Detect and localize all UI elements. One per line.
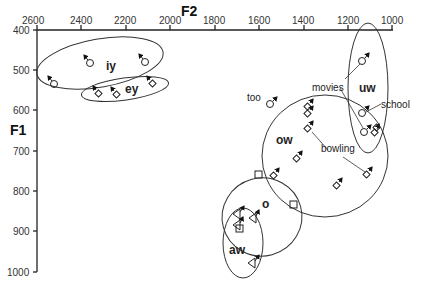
ow-ellipse [262,95,388,217]
x-tick-label: 1000 [381,15,404,26]
y-tick-label: 900 [13,226,30,237]
vowel-label-ow: ow [276,133,293,147]
y-tick-label: 400 [13,25,30,36]
y-tick-label: 800 [13,186,30,197]
y-tick-label: 500 [13,65,30,76]
vowel-formant-chart: 2600 2400 2200 2000 1800 1600 1400 1200 … [0,0,421,285]
x-axis-title: F2 [181,3,198,19]
x-tick-label: 2400 [70,15,93,26]
y-axis-title: F1 [10,122,27,138]
x-tick-label: 1800 [203,15,226,26]
word-label-movies: movies [312,82,344,93]
vowel-label-uw: uw [359,81,376,95]
x-tick-label: 1400 [292,15,315,26]
x-tick-label: 1200 [337,15,360,26]
y-tick-label: 1000 [7,267,30,278]
x-tick-label: 2200 [114,15,137,26]
x-tick-label: 2000 [159,15,182,26]
vowel-label-ey: ey [125,82,139,96]
word-label-too: too [247,92,261,103]
y-tick-label: 700 [13,146,30,157]
too-point [267,97,278,108]
word-label-bowling: bowling [321,143,355,154]
vowel-label-o: o [262,197,269,211]
word-label-school: school [381,99,410,110]
vowel-label-iy: iy [106,59,116,73]
y-axis [33,30,37,272]
o-ellipse [213,169,310,265]
y-tick-label: 600 [13,105,30,116]
x-tick-label: 1600 [248,15,271,26]
vowel-label-aw: aw [229,243,246,257]
